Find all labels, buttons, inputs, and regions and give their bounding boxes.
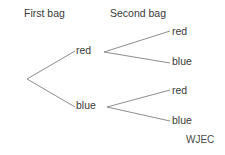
column-header-first-bag: First bag: [24, 8, 65, 19]
tree-branch-lines: [0, 0, 225, 155]
branch-root-to-first-red: [27, 51, 75, 79]
probability-tree-diagram: First bag Second bag red blue red blue r…: [0, 0, 225, 155]
leaf-label-red-red: red: [172, 26, 187, 37]
leaf-label-blue-blue: blue: [172, 115, 192, 126]
wjec-watermark: WJEC: [186, 134, 214, 145]
column-header-second-bag: Second bag: [110, 8, 166, 19]
leaf-label-blue-red: red: [172, 85, 187, 96]
branch-first-red-to-blue: [104, 52, 170, 63]
branch-first-red-to-red: [104, 31, 170, 52]
branch-root-to-first-blue: [27, 79, 75, 107]
branch-first-blue-to-red: [107, 90, 170, 107]
leaf-label-red-blue: blue: [172, 56, 192, 67]
node-label-first-bag-red: red: [76, 45, 91, 56]
node-label-first-bag-blue: blue: [76, 100, 96, 111]
branch-first-blue-to-blue: [107, 107, 170, 121]
